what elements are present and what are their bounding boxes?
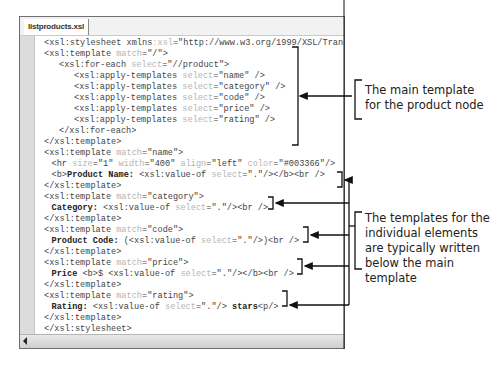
code-line: <b>Product Name: <xsl:value-of select=".… [52, 170, 325, 181]
code-line: Price <b>$ <xsl:value-of select="."/></b… [52, 269, 294, 280]
code-line: </xsl:for-each> [59, 126, 136, 137]
code-line: <xsl:stylesheet xmlns:xsl="http://www.w3… [44, 38, 343, 49]
scroll-left-arrow-icon[interactable] [23, 337, 27, 345]
code-line: </xsl:template> [44, 247, 121, 258]
code-area[interactable]: <xsl:stylesheet xmlns:xsl="http://www.w3… [44, 38, 344, 334]
code-line: <xsl:template match="category"> [44, 192, 204, 203]
code-line: <xsl:apply-templates select="rating" /> [74, 115, 275, 126]
code-line: </xsl:template> [44, 181, 121, 192]
code-line: <xsl:template match="code"> [44, 225, 183, 236]
code-line: </xsl:template> [44, 280, 121, 291]
tab-bar: listproducts.xsl [20, 17, 344, 36]
code-line: </xsl:template> [44, 214, 121, 225]
tab-listproducts-xsl[interactable]: listproducts.xsl [24, 19, 89, 35]
code-line: Product Code: (<xsl:value-of select="."/… [52, 236, 300, 247]
code-line: <hr size="1" width="400" align="left" co… [52, 159, 336, 170]
editor-gutter [20, 36, 35, 334]
code-editor-window: listproducts.xsl <xsl:stylesheet xmlns:x… [19, 16, 345, 349]
code-line: <xsl:template match="price"> [44, 258, 188, 269]
callout-individual-templates: The templates for the individual element… [365, 211, 493, 286]
code-line: </xsl:stylesheet> [44, 324, 132, 334]
code-line: Category: <xsl:value-of select="."/><br … [52, 203, 269, 214]
code-line: <xsl:template match="name"> [44, 148, 183, 159]
code-line: <xsl:apply-templates select="price" /> [74, 104, 270, 115]
horizontal-scrollbar[interactable] [20, 334, 344, 348]
code-line: </xsl:template> [44, 313, 121, 324]
code-line: <xsl:template match="/"> [44, 49, 168, 60]
code-line: Rating: <xsl:value-of select="."/> stars… [52, 302, 279, 313]
code-line: <xsl:apply-templates select="category" /… [74, 82, 285, 93]
code-line: <xsl:apply-templates select="code" /> [74, 93, 265, 104]
callout-main-template: The main template for the product node [365, 83, 493, 113]
code-line: <xsl:template match="rating"> [44, 291, 194, 302]
code-line: </xsl:template> [44, 137, 121, 148]
code-line: <xsl:apply-templates select="name" /> [74, 71, 265, 82]
code-line: <xsl:for-each select="//product"> [59, 60, 229, 71]
